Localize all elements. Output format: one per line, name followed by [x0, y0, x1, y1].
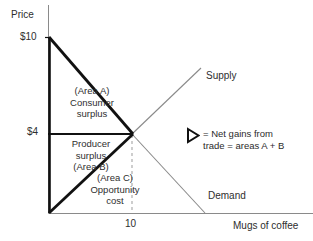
economics-supply-demand-figure: Price Mugs of coffee $10 $4 10 (Area A) …	[0, 0, 313, 241]
x-tick-label-10: 10	[125, 218, 136, 230]
annotation-area-b-producer-surplus: Producer surplus (Area B)	[58, 138, 124, 173]
y-tick-label-10-dollars: $10	[20, 31, 37, 43]
legend: = Net gains from trade = areas A + B	[186, 127, 284, 152]
y-tick-label-4-dollars: $4	[27, 126, 38, 138]
y-axis-title: Price	[11, 9, 34, 21]
annotation-area-c-opportunity-cost: (Area C) Opportunity cost	[84, 172, 146, 207]
supply-curve-label: Supply	[206, 70, 237, 82]
demand-curve-label: Demand	[208, 190, 246, 202]
annotation-area-a-consumer-surplus: (Area A) Consumer surplus	[60, 85, 124, 120]
plot-canvas	[0, 0, 313, 241]
legend-text: = Net gains from trade = areas A + B	[203, 127, 284, 152]
supply-curve-thin-segment	[132, 68, 201, 134]
x-axis-title: Mugs of coffee	[233, 220, 298, 232]
right-triangle-outline-icon	[186, 127, 200, 144]
